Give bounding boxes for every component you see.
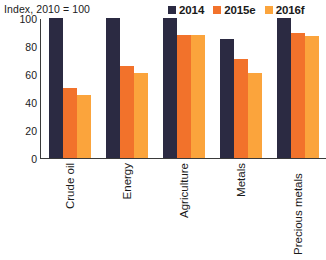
bar-group xyxy=(41,19,98,158)
x-axis-label: Metals xyxy=(234,163,247,197)
bar-group xyxy=(98,19,155,158)
y-axis-tick-80: 80 xyxy=(25,42,37,53)
legend-label-2016f: 2016f xyxy=(276,4,305,16)
x-axis-label-cell: Agriculture xyxy=(155,161,212,260)
x-axis-label-cell: Crude oil xyxy=(41,161,98,260)
bar[interactable] xyxy=(305,36,319,158)
y-axis-tick-20: 20 xyxy=(25,126,37,137)
chart-legend: 2014 2015e 2016f xyxy=(168,4,305,16)
bar-group xyxy=(269,19,326,158)
y-axis-tick-0: 0 xyxy=(31,154,37,165)
y-axis-tick-100: 100 xyxy=(19,14,37,25)
commodity-price-index-chart: Index, 2010 = 100 2014 2015e 2016f 10080… xyxy=(0,0,326,260)
legend-item-2016f[interactable]: 2016f xyxy=(265,4,305,16)
bar-groups xyxy=(41,19,326,158)
legend-swatch-2015e xyxy=(213,6,221,14)
legend-label-2014: 2014 xyxy=(179,4,204,16)
bar[interactable] xyxy=(77,95,91,158)
bar[interactable] xyxy=(63,88,77,158)
bar[interactable] xyxy=(191,35,205,158)
chart-axis-note: Index, 2010 = 100 xyxy=(4,3,90,15)
x-axis-label: Agriculture xyxy=(177,163,190,218)
legend-item-2015e[interactable]: 2015e xyxy=(213,4,255,16)
bar[interactable] xyxy=(220,39,234,158)
x-axis-label-cell: Energy xyxy=(98,161,155,260)
bar[interactable] xyxy=(277,18,291,158)
bar[interactable] xyxy=(106,18,120,158)
bar[interactable] xyxy=(120,66,134,158)
legend-swatch-2014 xyxy=(168,6,176,14)
x-axis-label-cell: Metals xyxy=(212,161,269,260)
legend-swatch-2016f xyxy=(265,6,273,14)
x-axis-line xyxy=(40,158,326,159)
y-axis-tick-40: 40 xyxy=(25,98,37,109)
x-axis-label: Precious metals xyxy=(291,163,304,255)
bar[interactable] xyxy=(134,73,148,158)
y-axis-tick-60: 60 xyxy=(25,70,37,81)
x-axis-category-labels: Crude oilEnergyAgricultureMetalsPrecious… xyxy=(41,161,326,260)
x-axis-label: Energy xyxy=(120,163,133,199)
legend-item-2014[interactable]: 2014 xyxy=(168,4,204,16)
bar[interactable] xyxy=(248,73,262,158)
bar[interactable] xyxy=(291,33,305,158)
bar[interactable] xyxy=(177,35,191,158)
bar[interactable] xyxy=(163,18,177,158)
bar-group xyxy=(155,19,212,158)
bar-group xyxy=(212,19,269,158)
bar[interactable] xyxy=(234,59,248,158)
y-axis-tick-labels: 100806040200 xyxy=(0,19,37,159)
x-axis-label-cell: Precious metals xyxy=(269,161,326,260)
x-axis-label: Crude oil xyxy=(63,163,76,209)
bar[interactable] xyxy=(49,18,63,158)
legend-label-2015e: 2015e xyxy=(224,4,255,16)
